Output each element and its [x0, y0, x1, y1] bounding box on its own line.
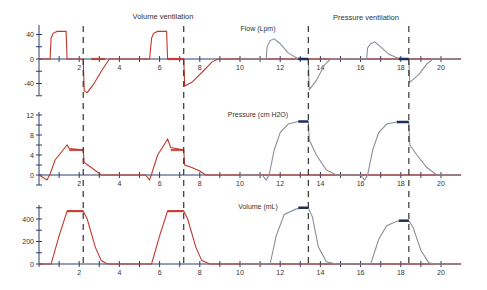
y-tick-label: 200: [22, 238, 34, 245]
ventilation-waveform-chart: Volume ventilation Pressure ventilation …: [0, 0, 487, 290]
y-tick-label: 0: [30, 172, 34, 179]
x-tick-label: 6: [158, 64, 162, 71]
x-tick-label: 2: [77, 269, 81, 276]
x-tick-label: 16: [357, 180, 365, 187]
x-tick-label: 14: [317, 180, 325, 187]
x-tick-label: 8: [198, 64, 202, 71]
y-tick-label: 4: [30, 152, 34, 159]
title-pressure-ventilation: Pressure ventilation: [333, 13, 399, 22]
x-tick-label: 8: [198, 269, 202, 276]
x-tick-label: 12: [276, 64, 284, 71]
panel-volume: 40020002468101214161820Volume (mL): [22, 203, 461, 276]
x-tick-label: 12: [276, 269, 284, 276]
x-tick-label: 4: [117, 269, 121, 276]
x-tick-label: 18: [397, 180, 405, 187]
x-tick-label: 10: [236, 269, 244, 276]
panel-label-flow: Flow (Lpm): [240, 25, 275, 33]
series-volume-ventilation-pressure: [39, 139, 461, 180]
series-volume-ventilation-flow: [39, 31, 461, 92]
series-pressure-ventilation-flow: [240, 39, 461, 90]
x-tick-label: 12: [276, 180, 284, 187]
x-tick-label: 16: [357, 269, 365, 276]
title-volume-ventilation: Volume ventilation: [133, 12, 194, 21]
x-tick-label: 18: [397, 64, 405, 71]
panel-label-volume: Volume (mL): [238, 203, 278, 211]
panel-label-pressure: Pressure (cm H2O): [228, 111, 288, 119]
x-tick-label: 16: [357, 64, 365, 71]
x-tick-label: 20: [437, 180, 445, 187]
x-tick-label: 4: [117, 64, 121, 71]
x-tick-label: 14: [317, 269, 325, 276]
series-volume-ventilation-volume: [39, 211, 461, 264]
y-tick-label: -40: [24, 80, 34, 87]
x-tick-label: 8: [198, 180, 202, 187]
y-tick-label: 40: [26, 31, 34, 38]
x-tick-label: 10: [236, 64, 244, 71]
x-tick-label: 20: [437, 64, 445, 71]
series-pressure-ventilation-volume: [240, 208, 461, 264]
x-tick-label: 2: [77, 64, 81, 71]
x-tick-label: 10: [236, 180, 244, 187]
x-tick-label: 20: [437, 269, 445, 276]
x-tick-label: 6: [158, 180, 162, 187]
y-tick-label: 400: [22, 216, 34, 223]
y-tick-label: 12: [26, 112, 34, 119]
panel-pressure: 128402468101214161820Pressure (cm H2O): [26, 111, 461, 187]
y-tick-label: 8: [30, 132, 34, 139]
x-tick-label: 2: [77, 180, 81, 187]
panel-flow: 400-402468101214161820Flow (Lpm): [24, 25, 461, 96]
series-pressure-ventilation-pressure: [240, 122, 461, 181]
x-tick-label: 4: [117, 180, 121, 187]
x-tick-label: 18: [397, 269, 405, 276]
x-tick-label: 6: [158, 269, 162, 276]
y-tick-label: 0: [30, 56, 34, 63]
y-tick-label: 0: [30, 261, 34, 268]
